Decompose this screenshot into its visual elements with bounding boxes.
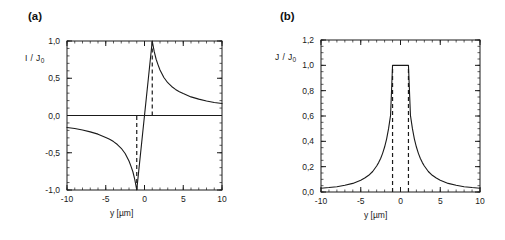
y-tick-label: 0,6 bbox=[302, 111, 314, 121]
plot-frame bbox=[321, 40, 480, 192]
figure-container: (a) I / J0 y [µm] -10-50510-1,0-0,50,00,… bbox=[0, 0, 505, 240]
x-tick-label: 10 bbox=[217, 194, 227, 204]
panel-a-plot: -10-50510-1,0-0,50,00,51,0 bbox=[0, 0, 252, 240]
x-tick-label: 0 bbox=[398, 196, 403, 206]
panel-a-x-axis-label: y [µm] bbox=[110, 208, 133, 218]
y-tick-label: 0,2 bbox=[302, 162, 314, 172]
y-tick-label: 1,2 bbox=[302, 35, 314, 45]
panel-a-label: (a) bbox=[28, 10, 42, 22]
y-tick-label: 1,0 bbox=[48, 36, 60, 46]
y-tick-label: 0,0 bbox=[302, 187, 314, 197]
panel-b-y-axis-label: J / J0 bbox=[275, 52, 297, 63]
panel-b: (b) J / J0 y [µm] -10-505100,00,20,40,60… bbox=[252, 0, 504, 240]
x-tick-label: 5 bbox=[438, 196, 443, 206]
panel-a-y-axis-label: I / J0 bbox=[25, 53, 45, 64]
y-tick-label: 0,4 bbox=[302, 136, 314, 146]
y-tick-label: -0,5 bbox=[45, 148, 60, 158]
x-tick-label: -10 bbox=[315, 196, 328, 206]
x-tick-label: 0 bbox=[142, 194, 147, 204]
y-tick-label: 0,0 bbox=[48, 111, 60, 121]
panel-a: (a) I / J0 y [µm] -10-50510-1,0-0,50,00,… bbox=[0, 0, 252, 240]
panel-b-x-axis-label: y [µm] bbox=[364, 210, 387, 220]
panel-b-label: (b) bbox=[280, 10, 295, 22]
y-tick-label: 0,8 bbox=[302, 86, 314, 96]
x-tick-label: 10 bbox=[475, 196, 485, 206]
x-tick-label: -5 bbox=[357, 196, 365, 206]
y-tick-label: -1,0 bbox=[45, 185, 60, 195]
x-tick-label: -5 bbox=[102, 194, 110, 204]
panel-b-plot: -10-505100,00,20,40,60,81,01,2 bbox=[252, 0, 504, 240]
y-tick-label: 1,0 bbox=[302, 60, 314, 70]
x-tick-label: 5 bbox=[181, 194, 186, 204]
data-curve bbox=[321, 65, 480, 188]
y-tick-label: 0,5 bbox=[48, 73, 60, 83]
x-tick-label: -10 bbox=[61, 194, 74, 204]
